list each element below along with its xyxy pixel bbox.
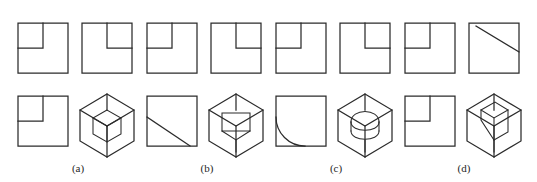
figure-bottom-3 bbox=[147, 96, 197, 146]
bottom-row-group bbox=[18, 94, 521, 157]
figure-top-5 bbox=[276, 23, 326, 73]
figure-top-6 bbox=[340, 23, 390, 73]
figure-bottom-4-cube bbox=[209, 94, 263, 157]
figure-top-8 bbox=[469, 23, 519, 73]
figure-top-7 bbox=[405, 23, 455, 73]
figure-root: ‑ ‑ ‑ ‑ ‑ ‑ ‑ ‑ ‑ ‑ ‑ ‑ ‑ ‑ ‑ ‑ ‑ ‑ ‑ ‑ … bbox=[0, 0, 537, 182]
caption-option-b: (b) bbox=[187, 162, 227, 174]
caption-option-c: (c) bbox=[316, 162, 356, 174]
figure-bottom-7 bbox=[405, 96, 455, 146]
figure-bottom-1 bbox=[18, 96, 68, 146]
figure-bottom-6-cube bbox=[338, 94, 392, 157]
figure-top-3 bbox=[147, 23, 197, 73]
top-row-group bbox=[18, 23, 519, 73]
caption-option-a: (a) bbox=[58, 162, 98, 174]
figure-bottom-2-cube bbox=[80, 94, 134, 157]
figure-top-2 bbox=[82, 23, 132, 73]
figure-top-4 bbox=[211, 23, 261, 73]
caption-option-d: (d) bbox=[444, 162, 484, 174]
figure-canvas bbox=[0, 0, 537, 182]
figure-top-1 bbox=[18, 23, 68, 73]
figure-bottom-5 bbox=[276, 96, 326, 146]
figure-bottom-8-cube bbox=[467, 94, 521, 157]
